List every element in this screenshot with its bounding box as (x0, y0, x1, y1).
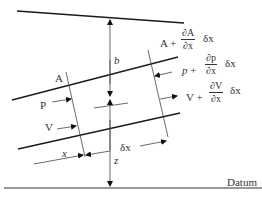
velocity-derivative-fraction: ∂V∂x (209, 81, 223, 104)
channel-bed-line (18, 113, 180, 149)
pressure-label-p: P (40, 100, 46, 111)
area-term-base: A + (160, 38, 176, 49)
pressure-term-dx: δx (225, 58, 236, 69)
velocity-label-v: V (45, 122, 53, 133)
dx-label: δx (120, 142, 131, 153)
dx-arrow-left (86, 151, 110, 155)
v-arrow (57, 126, 76, 129)
p-arrow (52, 99, 71, 102)
b-label: b (114, 55, 120, 66)
pressure-derivative-fraction: ∂p∂x (205, 53, 217, 76)
dx-arrow-right (140, 141, 166, 146)
datum-label: Datum (227, 177, 257, 188)
velocity-term-base: V + (186, 92, 203, 103)
upper-boundary-line (12, 57, 178, 100)
mid-tick (94, 103, 128, 108)
pressure-term-base: p + (182, 65, 196, 76)
z-label: z (114, 155, 118, 166)
x-label: x (62, 148, 67, 159)
area-derivative-fraction: ∂A∂x (181, 28, 195, 51)
area-term-dx: δx (203, 33, 214, 44)
v-plus-arrow (160, 96, 177, 99)
x-arrow (34, 155, 83, 164)
left-section-line (66, 72, 85, 157)
right-section-line (148, 50, 168, 137)
p-plus-arrow (155, 72, 172, 76)
water-surface-line (17, 11, 184, 23)
velocity-term-dx: δx (230, 85, 241, 96)
area-label-a: A (55, 73, 63, 84)
